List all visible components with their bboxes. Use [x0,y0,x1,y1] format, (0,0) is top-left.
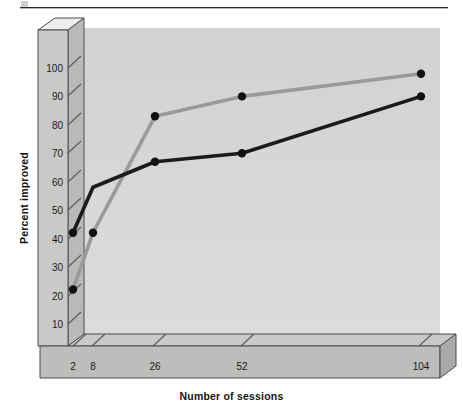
y-axis-side-face [68,18,84,346]
plot-background-shade [68,28,440,346]
y-axis-title: Percent improved [18,138,30,258]
data-point-marker [417,92,425,100]
y-tick-label: 30 [52,262,64,273]
x-tick-label: 8 [90,361,96,372]
chart-page: 100 90 80 70 60 50 40 30 20 10 0 [0,0,463,414]
data-point-marker [238,149,246,157]
y-tick-label: 50 [52,205,64,216]
x-tick-label: 104 [413,361,430,372]
x-tick-label: 52 [236,361,248,372]
data-point-marker [417,69,425,77]
data-point-marker [89,229,97,237]
chart-svg: 100 90 80 70 60 50 40 30 20 10 0 [0,0,463,414]
y-tick-label: 60 [52,177,64,188]
x-axis-top-face [68,334,456,346]
data-point-marker [238,92,246,100]
y-tick-label: 70 [52,148,64,159]
x-axis-title: Number of sessions [0,390,463,402]
data-point-marker [69,229,77,237]
data-point-marker [151,158,159,166]
y-tick-label: 10 [52,319,64,330]
y-tick-label: 40 [52,234,64,245]
x-tick-label: 2 [70,361,76,372]
y-tick-label: 80 [52,120,64,131]
y-tick-label: 100 [46,63,63,74]
data-point-marker [69,285,77,293]
x-tick-label: 26 [149,361,161,372]
data-point-marker [151,112,159,120]
line-chart: 100 90 80 70 60 50 40 30 20 10 0 [0,0,463,414]
y-tick-label: 90 [52,91,64,102]
y-tick-label: 20 [52,291,64,302]
